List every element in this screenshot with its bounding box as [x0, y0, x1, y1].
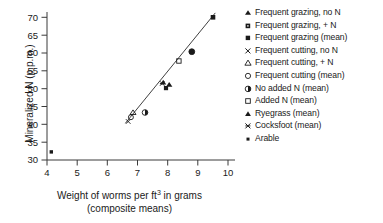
data-point-arable [50, 150, 53, 153]
x-tick-label: 10 [223, 167, 234, 178]
x-axis-title-line1-a: Weight of worms per ft [57, 190, 157, 201]
regression-line [125, 13, 215, 123]
x-tick-label: 5 [75, 167, 80, 178]
legend-item-frequent-grazing-no-n: Frequent grazing, no N [241, 6, 383, 19]
legend-label: Frequent cutting, + N [255, 56, 333, 69]
open-square-icon [241, 94, 255, 107]
legend-item-frequent-cutting-no-n: Frequent cutting, no N [241, 44, 383, 57]
legend-item-added-n-mean: Added N (mean) [241, 94, 383, 107]
legend-label: Frequent cutting (mean) [255, 69, 344, 82]
legend-label: No added N (mean) [255, 82, 329, 95]
x-tick-label: 6 [105, 167, 110, 178]
filled-triangle-icon [241, 6, 255, 19]
cross-icon [241, 44, 255, 57]
y-axis-title: Mineralized N (p.p.m.) [24, 19, 35, 169]
legend-label: Cocksfoot (mean) [255, 119, 321, 132]
legend-item-frequent-grazing-mean: Frequent grazing (mean) [241, 31, 383, 44]
open-triangle-icon [241, 56, 255, 69]
legend-label: Frequent cutting, no N [255, 44, 338, 57]
filled-square-icon [241, 31, 255, 44]
x-axis-title: Weight of worms per ft3 in grams(composi… [22, 186, 237, 215]
x-tick-label: 7 [135, 167, 140, 178]
x-tick-label: 4 [44, 167, 49, 178]
x-axis-title-line1-b: in grams [161, 190, 202, 201]
legend-label: Frequent grazing, + N [255, 19, 336, 32]
legend-item-frequent-cutting-mean: Frequent cutting (mean) [241, 69, 383, 82]
scatter-plot: 30 35 40 45 50 55 60 65 70 4 5 6 7 8 9 [0, 0, 260, 200]
open-circle-icon [241, 69, 255, 82]
x-axis-tick-labels: 4 5 6 7 8 9 10 [44, 167, 233, 178]
legend-label: Added N (mean) [255, 94, 317, 107]
cross-bar-icon [241, 119, 255, 132]
legend-item-ryegrass-mean: Ryegrass (mean) [241, 107, 383, 120]
data-point-frequent-grazing-no-n [166, 82, 172, 87]
data-point-frequent-cutting-mean [128, 115, 133, 120]
legend-item-cocksfoot-mean: Cocksfoot (mean) [241, 119, 383, 132]
data-point-no-added-n-mean-1 [142, 110, 148, 116]
legend-item-frequent-grazing-plus-n: Frequent grazing, + N [241, 19, 383, 32]
data-points [50, 15, 216, 154]
small-square-icon [241, 132, 255, 145]
legend-item-no-added-n-mean: No added N (mean) [241, 82, 383, 95]
x-tick-label: 8 [165, 167, 170, 178]
legend-item-arable: Arable [241, 132, 383, 145]
chart-legend: Frequent grazing, no N Frequent grazing,… [241, 6, 383, 145]
x-tick-label: 9 [195, 167, 200, 178]
legend-label: Frequent grazing, no N [255, 6, 341, 19]
legend-label: Ryegrass (mean) [255, 107, 319, 120]
x-axis-ticks [47, 160, 228, 166]
half-filled-circle-icon [241, 82, 255, 95]
legend-label: Frequent grazing (mean) [255, 31, 347, 44]
filled-square-dot-icon [241, 19, 255, 32]
data-point-frequent-grazing-plus-n [211, 15, 216, 20]
data-point-no-added-n-mean-2 [189, 49, 195, 55]
x-axis-title-line2: (composite means) [87, 203, 172, 214]
legend-label: Arable [255, 132, 279, 145]
y-axis-ticks [42, 17, 48, 160]
chart-figure: 30 35 40 45 50 55 60 65 70 4 5 6 7 8 9 [0, 0, 383, 223]
legend-item-frequent-cutting-plus-n: Frequent cutting, + N [241, 56, 383, 69]
filled-triangle-small-icon [241, 107, 255, 120]
